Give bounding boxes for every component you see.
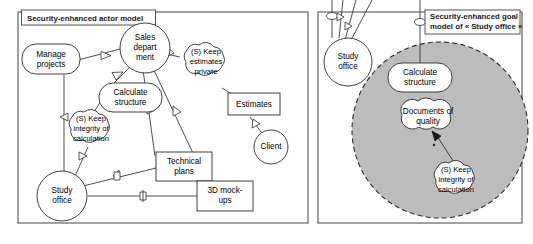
panel-goal-title-line2: model of « Study office » <box>430 22 522 31</box>
node-sales-department-line3: ment <box>136 53 155 62</box>
node-calculate-structure-line1: Calculate <box>113 88 148 97</box>
link-dot <box>433 144 435 146</box>
panel-actor-title: Security-enhanced actor model <box>27 14 143 23</box>
node-3d-mockups-line1: 3D mock- <box>207 186 242 195</box>
node-study-office-right-line1: Study <box>338 52 360 61</box>
panel-goal-title-suffix: » <box>516 22 523 31</box>
node-manage-projects-line1: Manage <box>36 50 66 59</box>
panel-goal-title-italic: Study office <box>471 22 516 31</box>
node-calculate-structure-line2: structure <box>115 98 147 107</box>
node-calculate-structure-right-line1: Calculate <box>403 68 438 77</box>
marker-box-technical <box>114 172 120 180</box>
node-manage-projects[interactable]: Manage projects <box>22 44 80 74</box>
node-keep-integrity-line1: (S) Keep <box>76 114 106 123</box>
panel-goal-title-prefix: model of « <box>430 22 471 31</box>
node-documents-of-quality-line2: quality <box>416 117 441 126</box>
node-study-office-right[interactable]: Study office <box>324 38 372 86</box>
node-keep-integrity-calculation[interactable]: (S) Keep integrity of calculation <box>69 109 109 143</box>
node-client[interactable]: Client <box>254 130 288 164</box>
node-keep-integrity-line3: calculation <box>73 134 109 143</box>
node-sales-department[interactable]: Sales depart ment <box>120 23 170 73</box>
node-sales-department-line1: Sales <box>135 33 155 42</box>
node-keep-estimates-private-line2: estimates <box>190 57 223 66</box>
node-technical-plans-line1: Technical <box>167 157 201 166</box>
link-studyoffice-technical <box>83 167 160 186</box>
marker-estimates-client <box>252 119 260 128</box>
node-calculate-structure-right-line2: structure <box>404 78 436 87</box>
node-estimates-label: Estimates <box>236 100 272 109</box>
node-technical-plans[interactable]: Technical plans <box>156 152 212 181</box>
node-keep-integrity-right-line3: calculation <box>438 185 474 194</box>
link-goal-in-4 <box>350 0 372 42</box>
node-keep-integrity-line2: integrity of <box>73 124 109 133</box>
node-study-office[interactable]: Study office <box>37 171 87 221</box>
node-study-office-line1: Study <box>52 186 74 195</box>
node-3d-mockups[interactable]: 3D mock- ups <box>197 181 253 211</box>
node-calculate-structure[interactable]: Calculate structure <box>99 83 162 112</box>
node-keep-estimates-private-line3: private <box>195 67 218 76</box>
marker-goal-in-calculate <box>415 19 426 26</box>
panel-goal-model: Security-enhanced goal model of « Study … <box>318 0 528 223</box>
node-sales-department-line2: depart <box>133 43 157 52</box>
node-study-office-right-line2: office <box>338 62 358 71</box>
node-documents-of-quality-line1: Documents of <box>403 107 454 116</box>
node-keep-integrity-calculation-right[interactable]: (S) Keep integrity of calculation <box>434 160 474 194</box>
node-client-label: Client <box>261 142 283 151</box>
node-estimates[interactable]: Estimates <box>228 93 280 115</box>
node-manage-projects-line2: projects <box>37 60 66 69</box>
marker-goal-in-1 <box>327 13 338 20</box>
marker-sales-mockups <box>173 106 181 116</box>
node-keep-estimates-private[interactable]: (S) Keep estimates private <box>184 42 224 76</box>
goal-link-markers <box>327 13 426 31</box>
node-3d-mockups-line2: ups <box>218 196 231 205</box>
figure-canvas: Security-enhanced actor model <box>0 0 533 244</box>
node-technical-plans-line2: plans <box>174 167 194 176</box>
panel-goal-title-line1: Security-enhanced goal <box>430 12 518 21</box>
node-documents-of-quality[interactable]: Documents of quality <box>401 98 454 129</box>
node-study-office-line2: office <box>52 196 72 205</box>
node-keep-estimates-private-line1: (S) Keep <box>191 47 221 56</box>
node-calculate-structure-right[interactable]: Calculate structure <box>388 63 452 92</box>
node-keep-integrity-right-line2: integrity of <box>438 175 474 184</box>
diagram-svg: Security-enhanced actor model <box>0 0 533 244</box>
node-keep-integrity-right-line1: (S) Keep <box>441 165 471 174</box>
